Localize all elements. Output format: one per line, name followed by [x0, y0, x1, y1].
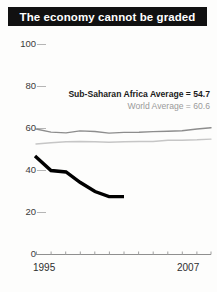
x-axis-label-start: 1995 — [33, 262, 55, 273]
chart-figure: The economy cannot be graded — [0, 0, 217, 292]
x-axis-label-end: 2007 — [177, 262, 199, 273]
y-axis-label-40: 40 — [2, 165, 36, 175]
y-axis-label-100: 100 — [2, 39, 36, 49]
y-axis-ticks — [37, 45, 46, 255]
y-axis-label-80: 80 — [2, 81, 36, 91]
series-line-world-average — [36, 128, 211, 133]
y-axis-label-0: 0 — [2, 249, 36, 259]
annotation-world-average: World Average = 60.6 — [38, 101, 210, 111]
y-axis-label-20: 20 — [2, 207, 36, 217]
series-line-highlight — [35, 156, 124, 197]
y-axis-label-60: 60 — [2, 123, 36, 133]
series-line-africa-average — [36, 139, 211, 144]
annotation-africa-average: Sub-Saharan Africa Average = 54.7 — [38, 89, 210, 99]
